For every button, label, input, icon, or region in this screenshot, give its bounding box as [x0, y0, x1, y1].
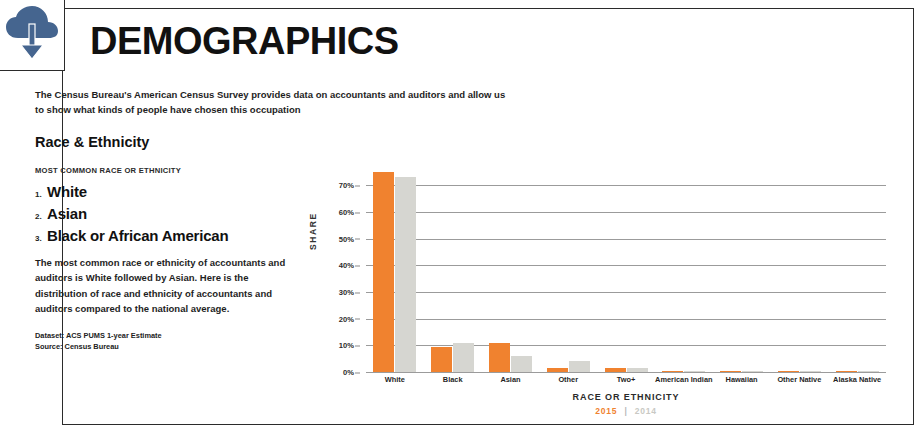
x-axis-tick: Other	[539, 375, 597, 384]
bar-2014[interactable]	[800, 371, 821, 372]
y-axis-tick: 0%	[343, 368, 354, 377]
rank-label: Asian	[47, 205, 87, 222]
bar-2015[interactable]	[778, 371, 799, 372]
bar-2014[interactable]	[742, 371, 763, 372]
source-line: Source: Census Bureau	[35, 341, 303, 352]
list-item: 1. White	[35, 183, 303, 200]
bar-2014[interactable]	[684, 371, 705, 372]
x-axis-tick: Hawaiian	[713, 375, 771, 384]
bar-2015[interactable]	[605, 368, 626, 372]
bar-2014[interactable]	[858, 371, 879, 372]
cloud-download-icon	[4, 4, 60, 62]
cloud-download-badge[interactable]	[0, 0, 65, 71]
source-block: Dataset: ACS PUMS 1-year Estimate Source…	[35, 330, 303, 352]
intro-paragraph: The Census Bureau's American Census Surv…	[35, 88, 555, 117]
chart-legend: 2015 | 2014	[366, 406, 886, 416]
bar-group	[539, 172, 597, 372]
plot-area	[366, 172, 886, 372]
x-axis-tick-labels: WhiteBlackAsianOtherTwo+American IndianH…	[366, 375, 886, 384]
bar-chart: SHARE 0%10%20%30%40%50%60%70% WhiteBlack…	[308, 172, 888, 417]
legend-item-2014[interactable]: 2014	[635, 406, 657, 416]
x-axis-tick: Alaska Native	[828, 375, 886, 384]
bar-series-container	[366, 172, 886, 372]
left-column: MOST COMMON RACE OR ETHNICITY 1. White 2…	[35, 166, 303, 352]
x-axis-tick: Other Native	[770, 375, 828, 384]
rank-caption: MOST COMMON RACE OR ETHNICITY	[35, 166, 303, 175]
y-axis-tick: 60%	[339, 208, 354, 217]
rank-label: White	[47, 183, 87, 200]
legend-separator: |	[624, 406, 627, 416]
y-axis-title: SHARE	[308, 212, 318, 250]
section-heading: Race & Ethnicity	[35, 134, 149, 150]
page-content: DEMOGRAPHICS The Census Bureau's America…	[90, 22, 890, 412]
bar-2015[interactable]	[489, 343, 510, 372]
rank-number: 1.	[35, 190, 47, 199]
bar-group	[366, 172, 424, 372]
dataset-line: Dataset: ACS PUMS 1-year Estimate	[35, 330, 303, 341]
bar-2015[interactable]	[547, 368, 568, 372]
x-axis-tick: American Indian	[655, 375, 713, 384]
y-axis-tick: 70%	[339, 181, 354, 190]
bar-group	[828, 172, 886, 372]
page-title: DEMOGRAPHICS	[90, 22, 890, 60]
y-axis-tick: 10%	[339, 341, 354, 350]
bar-2015[interactable]	[836, 371, 857, 372]
x-axis-tick: White	[366, 375, 424, 384]
y-axis-tick: 50%	[339, 234, 354, 243]
x-axis-tick: Two+	[597, 375, 655, 384]
bar-group	[424, 172, 482, 372]
bar-2014[interactable]	[569, 361, 590, 372]
y-axis-tick: 20%	[339, 314, 354, 323]
x-axis-tick: Asian	[482, 375, 540, 384]
bar-2015[interactable]	[720, 371, 741, 372]
bar-group	[770, 172, 828, 372]
rank-number: 2.	[35, 212, 47, 221]
bar-2015[interactable]	[662, 371, 683, 372]
intro-line-1: The Census Bureau's American Census Surv…	[35, 88, 555, 103]
bar-2014[interactable]	[511, 356, 532, 372]
body-copy: The most common race or ethnicity of acc…	[35, 255, 290, 317]
x-axis-title: RACE OR ETHNICITY	[366, 392, 886, 402]
bar-2014[interactable]	[453, 343, 474, 372]
bar-2015[interactable]	[373, 172, 394, 372]
y-axis-tick-labels: 0%10%20%30%40%50%60%70%	[328, 172, 360, 372]
bar-2014[interactable]	[627, 368, 648, 372]
bar-group	[713, 172, 771, 372]
bar-2014[interactable]	[395, 177, 416, 372]
rank-number: 3.	[35, 234, 47, 243]
intro-line-2: to show what kinds of people have chosen…	[35, 103, 555, 118]
y-axis-tick: 30%	[339, 288, 354, 297]
y-axis-tick: 40%	[339, 261, 354, 270]
legend-item-2015[interactable]: 2015	[595, 406, 617, 416]
list-item: 3. Black or African American	[35, 227, 303, 244]
list-item: 2. Asian	[35, 205, 303, 222]
plot-wrapper: 0%10%20%30%40%50%60%70% WhiteBlackAsianO…	[328, 172, 886, 417]
bar-group	[655, 172, 713, 372]
bar-group	[597, 172, 655, 372]
bar-group	[482, 172, 540, 372]
rank-label: Black or African American	[47, 227, 228, 244]
bar-2015[interactable]	[431, 347, 452, 372]
gridline	[366, 372, 886, 373]
x-axis-tick: Black	[424, 375, 482, 384]
